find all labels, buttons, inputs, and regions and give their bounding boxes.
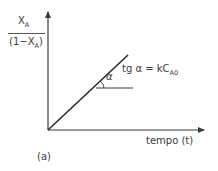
linear-plot-line bbox=[48, 55, 128, 130]
numerator-subscript: A bbox=[25, 21, 29, 29]
panel-label: (a) bbox=[37, 152, 51, 162]
denominator-text: (1−X bbox=[9, 36, 35, 47]
denominator-close: ) bbox=[39, 36, 43, 47]
y-label-numerator: XA bbox=[18, 16, 29, 29]
y-label-denominator: (1−XA) bbox=[9, 37, 43, 50]
angle-label: α bbox=[106, 72, 113, 82]
equation-text: tg α = kC bbox=[122, 63, 170, 74]
equation-subscript: A0 bbox=[170, 69, 179, 77]
fraction-bar bbox=[8, 33, 45, 34]
slope-equation: tg α = kCA0 bbox=[122, 64, 178, 77]
x-axis-label: tempo (t) bbox=[146, 136, 193, 146]
numerator-text: X bbox=[18, 15, 25, 26]
angle-arc bbox=[101, 82, 105, 89]
